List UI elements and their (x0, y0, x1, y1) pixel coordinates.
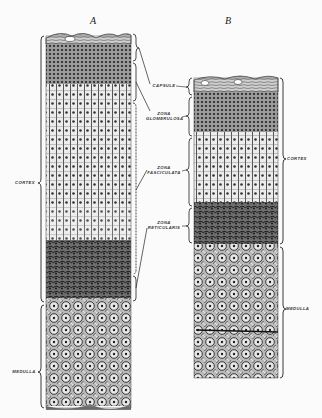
cortex-left-bracket (38, 36, 44, 302)
histology-illustration (0, 0, 322, 418)
section-a (46, 33, 131, 410)
label-cortex-left: CORTEX (13, 180, 37, 185)
label-cortex-right: CORTEX (287, 156, 313, 161)
label-zona-reticularis: ZONA RETICULARIS (146, 220, 182, 230)
label-zona-fasciculata-line2: FASCICULATA (146, 170, 182, 175)
label-zona-reticularis-line2: RETICULARIS (146, 225, 182, 230)
section-b (194, 76, 278, 378)
label-medulla-left: MEDULLA (10, 369, 38, 374)
medulla-left-bracket (38, 305, 44, 408)
medulla-right-bracket (280, 247, 286, 378)
label-medulla-right: MEDULLA (286, 306, 314, 311)
label-zona-glomerulosa: ZONA GLOMERULOSA (146, 111, 182, 121)
label-capsule: CAPSULE (150, 83, 178, 88)
label-zona-fasciculata: ZONA FASCICULATA (146, 165, 182, 175)
label-zona-glomerulosa-line2: GLOMERULOSA (146, 116, 182, 121)
cortex-right-bracket (280, 78, 286, 244)
